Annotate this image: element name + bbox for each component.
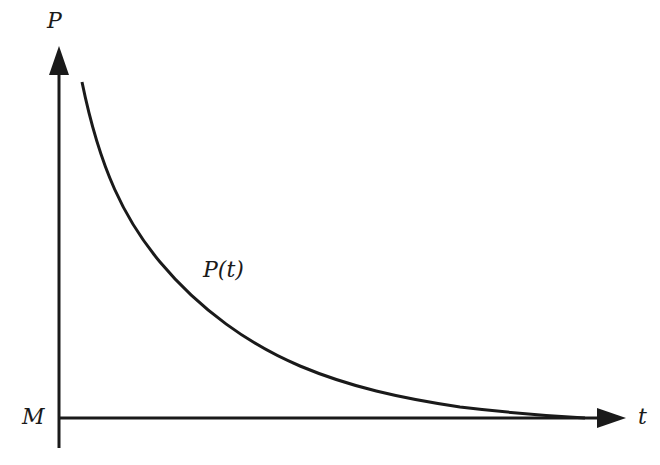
y-axis [49, 46, 69, 448]
curve-label: P(t) [203, 257, 244, 282]
asymptote-label: M [22, 404, 45, 429]
diagram-svg [0, 0, 660, 465]
x-axis-arrow-icon [597, 408, 626, 428]
x-axis [59, 408, 626, 428]
x-axis-label: t [638, 404, 647, 429]
y-axis-arrow-icon [49, 46, 69, 75]
decay-curve [82, 82, 585, 418]
y-axis-label: P [47, 8, 62, 33]
decay-diagram: P t M P(t) [0, 0, 660, 465]
